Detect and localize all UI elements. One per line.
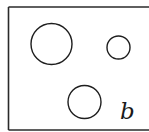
small-circle bbox=[107, 36, 130, 59]
large-circle bbox=[31, 24, 72, 65]
panel-label: b bbox=[120, 98, 135, 124]
diagram-figure: b bbox=[0, 0, 149, 132]
medium-circle bbox=[68, 86, 101, 119]
